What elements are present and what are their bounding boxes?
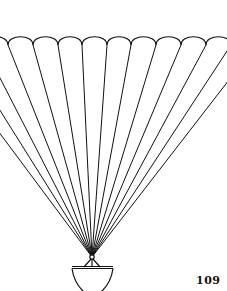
basket-bowl — [72, 269, 113, 291]
suspension-line-left — [84, 259, 91, 267]
page-number: 109 — [196, 274, 220, 287]
shroud-line — [92, 45, 206, 257]
canopy-scallop — [131, 37, 156, 45]
shroud-line — [92, 45, 156, 257]
canopy-scallop — [181, 37, 206, 45]
canopy-scallop — [107, 37, 131, 45]
canopy-scallop — [33, 37, 58, 45]
shroud-line — [0, 45, 92, 257]
shroud-line — [0, 45, 92, 257]
canopy-scallops — [0, 37, 227, 45]
shroud-line — [92, 45, 227, 257]
parachute-illustration — [0, 0, 227, 291]
canopy-scallop — [206, 37, 227, 45]
canopy-scallop — [58, 37, 82, 45]
canopy-scallop — [82, 37, 107, 45]
basket — [72, 255, 113, 291]
shroud-line — [92, 45, 107, 257]
shroud-line — [8, 45, 92, 257]
canopy-scallop — [0, 37, 8, 45]
shroud-line — [92, 45, 227, 257]
shroud-line — [92, 45, 131, 257]
suspension-line-right — [93, 259, 100, 267]
canopy-scallop — [156, 37, 181, 45]
shroud-line — [0, 45, 92, 257]
canopy-scallop — [8, 37, 33, 45]
shroud-line — [92, 45, 181, 257]
shroud-lines — [0, 45, 227, 257]
suspension-ring — [90, 255, 94, 259]
